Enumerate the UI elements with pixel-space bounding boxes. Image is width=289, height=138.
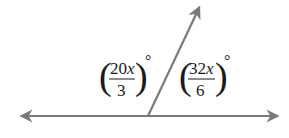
angle-diagram: ( 20x 3 ) ° ( 32x 6 ) ° bbox=[0, 0, 289, 138]
left-degree: ° bbox=[145, 52, 151, 69]
left-numerator: 20 bbox=[110, 59, 127, 78]
svg-text:32x: 32x bbox=[189, 59, 214, 78]
right-variable: x bbox=[205, 59, 214, 78]
right-degree: ° bbox=[224, 52, 230, 69]
svg-text:20x: 20x bbox=[110, 59, 135, 78]
left-denominator: 3 bbox=[117, 81, 126, 100]
right-numerator: 32 bbox=[189, 59, 206, 78]
left-angle-label: ( 20x 3 ) ° bbox=[99, 52, 151, 100]
left-variable: x bbox=[126, 59, 135, 78]
right-angle-label: ( 32x 6 ) ° bbox=[179, 52, 230, 100]
right-denominator: 6 bbox=[196, 81, 205, 100]
